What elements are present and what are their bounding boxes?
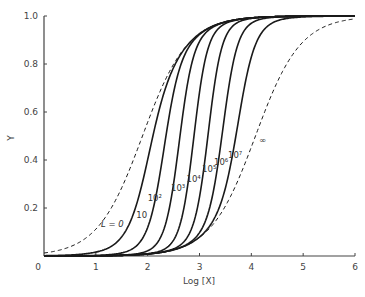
x-tick-label: 5: [300, 262, 306, 272]
x-tick-label: 4: [248, 262, 254, 272]
y-tick-label: 0.8: [24, 59, 39, 69]
curve-l-10: [44, 16, 355, 256]
y-tick-label: 1.0: [24, 11, 39, 21]
axes: 01234560.20.40.60.81.0: [24, 11, 358, 272]
y-tick-label: 0.2: [24, 203, 38, 213]
curve-l-10-5: [44, 16, 355, 256]
curve-l-: [44, 19, 355, 256]
curve-labels: L = 01010²10³10⁴10⁵10⁶10⁷∞: [101, 135, 266, 229]
curve-label: 10³: [171, 183, 185, 193]
curve-l-10-6: [44, 16, 355, 256]
curve-l-10-7: [44, 16, 355, 256]
saturation-chart: 01234560.20.40.60.81.0 L = 01010²10³10⁴1…: [0, 0, 365, 297]
y-axis-title: Y: [6, 135, 16, 142]
curve-label: ∞: [259, 135, 266, 145]
x-tick-label: 1: [93, 262, 99, 272]
x-tick-label: 3: [197, 262, 203, 272]
x-tick-label: 6: [352, 262, 358, 272]
curve-l-10-4: [44, 16, 355, 256]
y-tick-label: 0.6: [24, 107, 39, 117]
curve-label: L = 0: [101, 219, 124, 229]
curve-l-10-2: [44, 16, 355, 256]
curves: [44, 16, 355, 256]
curve-label: 10⁴: [187, 174, 202, 184]
x-axis-title: Log [X]: [183, 276, 215, 286]
curve-label: 10⁶: [214, 157, 229, 167]
x-tick-label: 2: [145, 262, 151, 272]
curve-label: 10⁷: [228, 150, 243, 160]
x-tick-label: 0: [35, 262, 41, 272]
curve-label: 10²: [148, 193, 162, 203]
curve-l-10-3: [44, 16, 355, 256]
y-tick-label: 0.4: [24, 155, 39, 165]
curve-label: 10: [136, 210, 147, 220]
curve-l-0: [44, 16, 355, 253]
